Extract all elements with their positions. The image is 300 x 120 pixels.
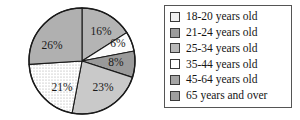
slice-label-35-44: 23% xyxy=(92,81,114,93)
legend-label-18-20: 18-20 years old xyxy=(186,11,258,23)
legend-swatch-18-20 xyxy=(170,12,180,22)
pie-chart-figure: 16% 6% 8% 23% 21% 26% 18-20 years old 21… xyxy=(0,0,300,120)
legend-swatch-35-44 xyxy=(170,59,180,69)
legend-swatch-25-34 xyxy=(170,43,180,53)
legend: 18-20 years old 21-24 years old 25-34 ye… xyxy=(164,5,292,108)
legend-item-45-64[interactable]: 45-64 years old xyxy=(170,72,287,88)
slice-label-25-34: 8% xyxy=(108,56,124,68)
legend-item-65-over[interactable]: 65 years and over xyxy=(170,88,287,104)
slice-label-21-24: 6% xyxy=(110,37,126,49)
legend-label-45-64: 45-64 years old xyxy=(186,74,258,86)
legend-item-35-44[interactable]: 35-44 years old xyxy=(170,56,287,72)
legend-swatch-21-24 xyxy=(170,28,180,38)
legend-label-35-44: 35-44 years old xyxy=(186,59,258,71)
slice-label-18-20: 16% xyxy=(90,25,112,37)
legend-label-21-24: 21-24 years old xyxy=(186,27,258,39)
slice-label-45-64: 21% xyxy=(51,81,73,93)
legend-item-21-24[interactable]: 21-24 years old xyxy=(170,25,287,41)
legend-item-18-20[interactable]: 18-20 years old xyxy=(170,9,287,25)
slice-label-65-over: 26% xyxy=(41,39,63,51)
legend-label-65-over: 65 years and over xyxy=(186,90,267,102)
slice-65-years-and-over[interactable] xyxy=(29,8,82,64)
legend-label-25-34: 25-34 years old xyxy=(186,43,258,55)
legend-swatch-65-over xyxy=(170,91,180,101)
legend-item-25-34[interactable]: 25-34 years old xyxy=(170,41,287,57)
pie-chart-area: 16% 6% 8% 23% 21% 26% xyxy=(18,4,146,118)
legend-swatch-45-64 xyxy=(170,75,180,85)
pie-svg: 16% 6% 8% 23% 21% 26% xyxy=(18,4,146,118)
